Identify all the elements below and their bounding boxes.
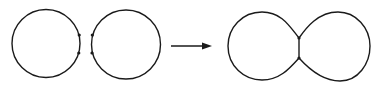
point-left-upper	[78, 33, 81, 36]
left-circle	[12, 10, 80, 78]
point-right-upper	[91, 33, 94, 36]
before-state	[12, 10, 161, 80]
transition-arrow	[171, 43, 212, 50]
point-right-lower	[90, 51, 93, 54]
after-state	[228, 12, 370, 81]
diagram-canvas	[0, 0, 383, 88]
point-left-lower	[77, 51, 80, 54]
right-circle	[92, 10, 161, 79]
junction-lower	[297, 56, 300, 59]
arrowhead-icon	[202, 43, 212, 50]
junction-upper	[297, 36, 300, 39]
